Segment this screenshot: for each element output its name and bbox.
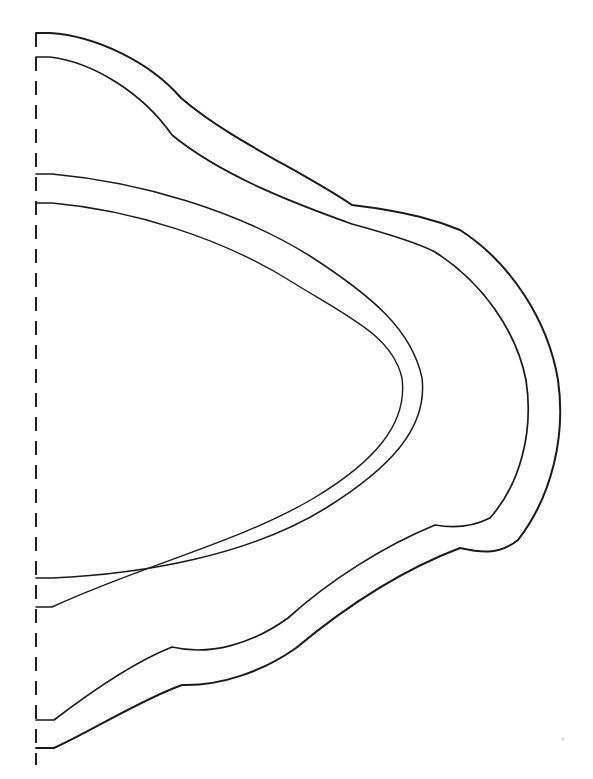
pattern-drawing (0, 0, 593, 779)
paper-speck-mark (561, 737, 564, 740)
drawing-canvas (0, 0, 593, 779)
page-background (0, 0, 593, 779)
